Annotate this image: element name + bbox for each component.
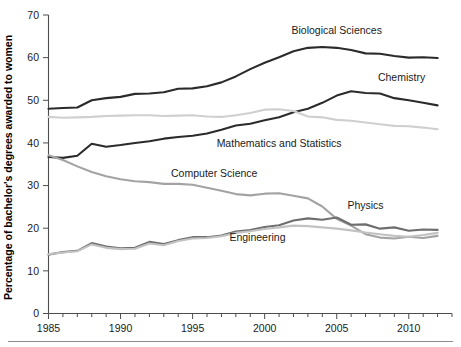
series-label-mathematics-and-statistics: Mathematics and Statistics bbox=[217, 137, 342, 149]
y-tick-label: 0 bbox=[33, 307, 39, 319]
x-tick-label: 1985 bbox=[37, 322, 61, 334]
y-tick-label: 60 bbox=[27, 51, 39, 63]
line-chart: Percentage of bachelor's degrees awarded… bbox=[0, 0, 461, 347]
y-axis-ticks: 010203040506070 bbox=[27, 9, 48, 320]
x-tick-label: 1995 bbox=[181, 322, 205, 334]
chart-container: Percentage of bachelor's degrees awarded… bbox=[0, 0, 461, 347]
series-label-physics: Physics bbox=[347, 199, 383, 211]
y-axis-title: Percentage of bachelor's degrees awarded… bbox=[2, 35, 14, 300]
y-tick-label: 10 bbox=[27, 265, 39, 277]
series-label-engineering: Engineering bbox=[229, 231, 285, 243]
x-tick-label: 2000 bbox=[253, 322, 277, 334]
x-axis-ticks: 198519901995200020052010 bbox=[37, 314, 452, 334]
series-label-biological-sciences: Biological Sciences bbox=[291, 24, 381, 36]
y-tick-label: 40 bbox=[27, 137, 39, 149]
series-line-mathematics-and-statistics bbox=[49, 109, 438, 129]
series-label-computer-science: Computer Science bbox=[171, 167, 258, 179]
x-tick-label: 2010 bbox=[397, 322, 421, 334]
x-tick-label: 2005 bbox=[325, 322, 349, 334]
series-label-chemistry: Chemistry bbox=[378, 71, 426, 83]
y-tick-label: 30 bbox=[27, 179, 39, 191]
x-tick-label: 1990 bbox=[109, 322, 133, 334]
y-tick-label: 50 bbox=[27, 94, 39, 106]
y-tick-label: 70 bbox=[27, 9, 39, 21]
y-tick-label: 20 bbox=[27, 222, 39, 234]
